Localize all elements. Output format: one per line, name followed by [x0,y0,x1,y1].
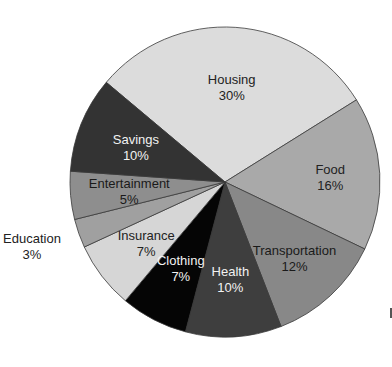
slice-value-food: 16% [317,178,343,193]
slice-value-health: 10% [217,280,243,295]
slice-value-clothing: 7% [171,269,190,284]
slice-label-transportation: Transportation [253,243,336,258]
slice-label-health: Health [212,264,250,279]
slice-label-food: Food [315,162,345,177]
slice-label-entertainment: Entertainment [89,176,170,191]
slice-value-entertainment: 5% [120,192,139,207]
slice-label-housing: Housing [208,72,256,87]
slice-value-savings: 10% [123,148,149,163]
slice-label-education: Education [3,231,61,246]
slice-label-clothing: Clothing [157,253,205,268]
pie-chart: Housing30%Food16%Transportation12%Health… [0,0,392,367]
slice-label-savings: Savings [113,132,160,147]
slice-value-housing: 30% [219,88,245,103]
slice-value-education: 3% [23,247,42,262]
slice-label-insurance: Insurance [118,228,175,243]
slice-value-insurance: 7% [137,244,156,259]
slice-value-transportation: 12% [281,259,307,274]
